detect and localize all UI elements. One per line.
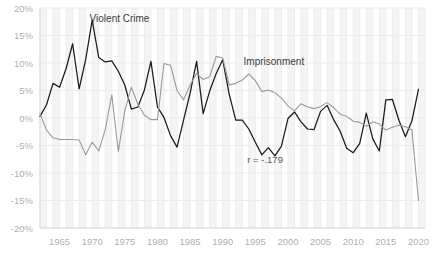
x-tick-label: 2005 (310, 236, 331, 247)
y-tick-label: 0% (19, 113, 33, 124)
x-tick-label: 1990 (212, 236, 233, 247)
y-tick-label: 20% (14, 3, 34, 14)
x-tick-label: 2015 (375, 236, 396, 247)
x-tick-label: 1965 (49, 236, 70, 247)
x-tick-label: 2020 (408, 236, 429, 247)
x-axis-tick-labels: 1965197019751980198519901995200020052010… (49, 236, 429, 247)
y-tick-label: -20% (11, 223, 34, 234)
x-tick-label: 1985 (180, 236, 201, 247)
correlation-annotation: r = -.179 (247, 154, 283, 165)
x-tick-label: 2000 (277, 236, 298, 247)
x-tick-label: 1995 (245, 236, 266, 247)
correlation-line-chart: 20%15%10%5%0%-5%-10%-15%-20% 19651970197… (0, 0, 432, 272)
y-tick-label: 10% (14, 58, 34, 69)
y-tick-label: -15% (11, 195, 34, 206)
x-tick-label: 1980 (147, 236, 168, 247)
y-tick-label: -10% (11, 168, 34, 179)
y-tick-label: 5% (19, 85, 33, 96)
series-label: Violent Crime (90, 13, 150, 24)
y-axis-tick-labels: 20%15%10%5%0%-5%-10%-15%-20% (11, 3, 34, 234)
chart-canvas: 20%15%10%5%0%-5%-10%-15%-20% 19651970197… (0, 0, 432, 272)
series-label: Imprisonment (244, 56, 305, 67)
y-tick-label: -5% (16, 140, 33, 151)
x-tick-label: 1970 (82, 236, 103, 247)
y-tick-label: 15% (14, 30, 34, 41)
x-tick-label: 2010 (343, 236, 364, 247)
x-tick-label: 1975 (114, 236, 135, 247)
chart-annotations: r = -.179 (247, 154, 283, 165)
